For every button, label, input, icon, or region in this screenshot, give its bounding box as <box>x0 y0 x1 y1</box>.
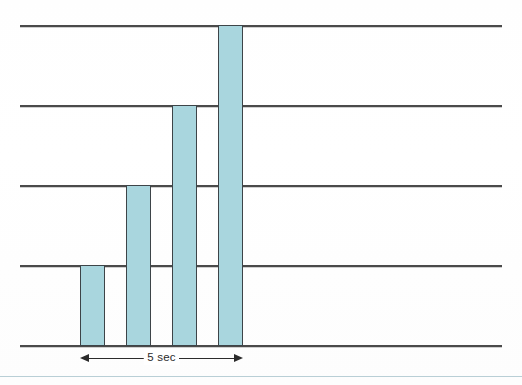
bar-2 <box>126 185 151 346</box>
gridline-top <box>20 25 502 27</box>
bar-4 <box>218 25 243 346</box>
bar-1 <box>80 265 105 346</box>
figure-root: 5 sec <box>0 0 522 385</box>
scale-bar-annotation: 5 sec <box>80 351 243 367</box>
bar-3 <box>172 105 197 346</box>
arrow-right-icon <box>234 354 243 362</box>
scale-bar-label: 5 sec <box>143 349 180 365</box>
gridline-2 <box>20 185 502 187</box>
gridline-3 <box>20 105 502 107</box>
plate-bottom-rule <box>0 376 522 377</box>
scale-rule-left <box>86 358 144 359</box>
plot-area: 5 sec <box>0 0 522 385</box>
scale-rule-right <box>179 358 237 359</box>
